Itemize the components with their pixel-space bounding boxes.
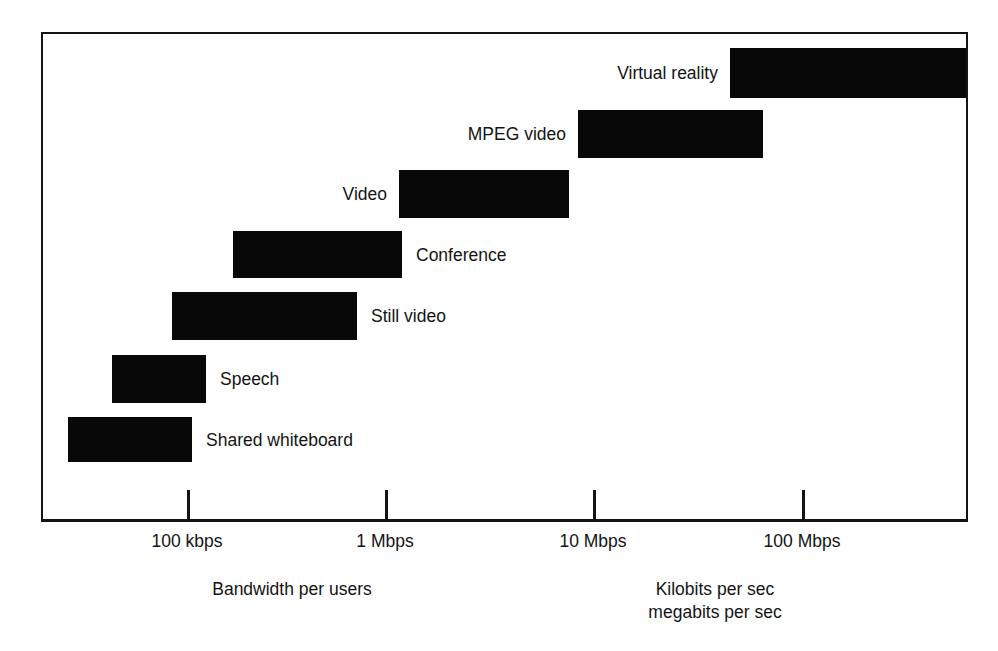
bar-conference (233, 231, 402, 278)
tick-label-100-mbps: 100 Mbps (764, 530, 841, 552)
bar-still-video (172, 292, 357, 340)
tick-label-100-kbps: 100 kbps (151, 530, 222, 552)
bar-label-speech: Speech (220, 369, 279, 389)
tick-mark-100-kbps (187, 490, 190, 519)
bar-label-still-video: Still video (371, 306, 446, 326)
bars-layer (43, 34, 966, 519)
plot-area-frame (41, 32, 968, 521)
tick-label-10-mbps: 10 Mbps (559, 530, 626, 552)
tick-mark-1-mbps (385, 490, 388, 519)
bar-label-conference: Conference (416, 245, 506, 265)
bar-label-mpeg-video: MPEG video (468, 124, 566, 144)
bar-label-shared-whiteboard: Shared whiteboard (206, 430, 353, 450)
tick-mark-100-mbps (802, 490, 805, 519)
bar-virtual-reality (730, 48, 966, 98)
tick-mark-10-mbps (593, 490, 596, 519)
caption-bandwidth-per-users: Bandwidth per users (212, 578, 372, 601)
bar-label-virtual-reality: Virtual reality (617, 63, 718, 83)
chart-figure: Virtual realityMPEG videoVideoConference… (0, 0, 998, 651)
bar-label-video: Video (343, 184, 387, 204)
x-axis-line (41, 519, 968, 522)
bar-video (399, 170, 569, 218)
bar-shared-whiteboard (68, 417, 192, 462)
caption-units: Kilobits per sec megabits per sec (648, 578, 781, 624)
bar-speech (112, 355, 206, 403)
bar-mpeg-video (578, 110, 763, 158)
tick-label-1-mbps: 1 Mbps (356, 530, 413, 552)
